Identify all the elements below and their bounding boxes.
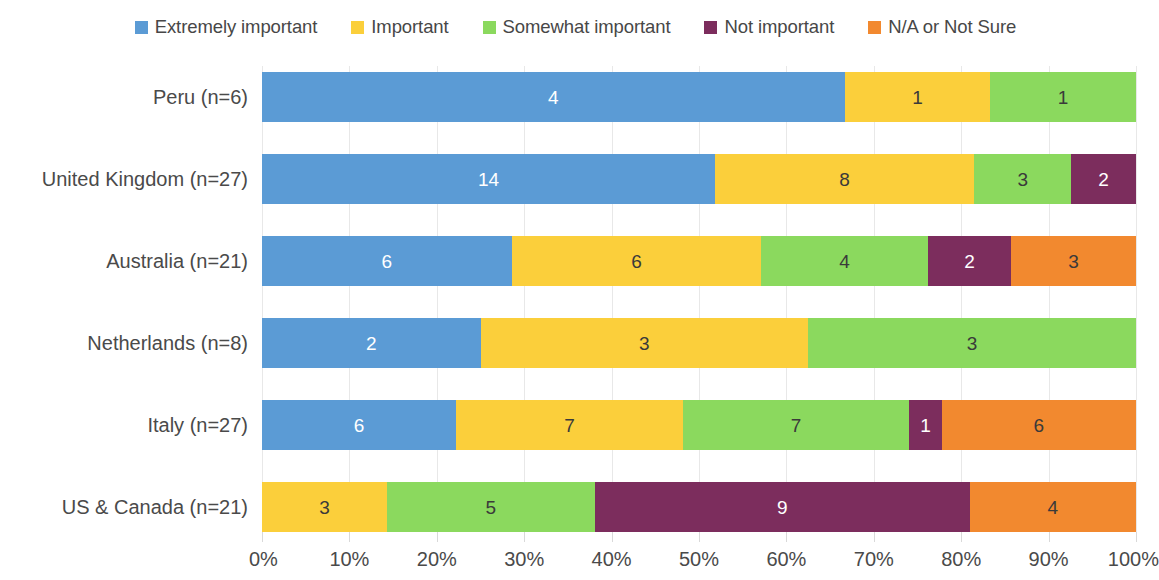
legend-item-label: Important <box>371 17 448 37</box>
chart-legend: Extremely importantImportantSomewhat imp… <box>0 10 1151 44</box>
bar-segment[interactable]: 6 <box>262 400 456 450</box>
bar-row: 66423 <box>262 236 1136 286</box>
x-axis-tick-label: 50% <box>679 548 719 571</box>
x-axis-tick-label: 90% <box>1029 548 1069 571</box>
square-swatch-icon <box>483 21 496 34</box>
bar-segment[interactable]: 2 <box>1071 154 1136 204</box>
y-axis-label: Italy (n=27) <box>0 400 248 450</box>
bar-segment[interactable]: 2 <box>928 236 1011 286</box>
bar-segment-value: 4 <box>1047 498 1058 517</box>
x-axis-tick-label: 70% <box>854 548 894 571</box>
bar-segment-value: 3 <box>967 334 978 353</box>
y-axis-category-labels: Peru (n=6)United Kingdom (n=27)Australia… <box>0 66 248 532</box>
bar-segment[interactable]: 3 <box>974 154 1071 204</box>
x-axis-tick-label: 20% <box>417 548 457 571</box>
bar-segment[interactable]: 3 <box>808 318 1136 368</box>
x-axis-tick <box>612 532 613 542</box>
x-axis-tick-label: 30% <box>504 548 544 571</box>
bar-row: 3594 <box>262 482 1136 532</box>
bar-row: 233 <box>262 318 1136 368</box>
bar-segment-value: 7 <box>791 416 802 435</box>
bar-segment-value: 6 <box>354 416 365 435</box>
bar-segment[interactable]: 9 <box>595 482 970 532</box>
x-axis-tick-label: 0% <box>249 548 278 571</box>
bar-segment[interactable]: 1 <box>845 72 991 122</box>
legend-item[interactable]: Extremely important <box>135 17 318 37</box>
gridline <box>1136 66 1137 532</box>
bar-row: 411 <box>262 72 1136 122</box>
bar-segment-value: 6 <box>1034 416 1045 435</box>
x-axis-tick-label: 40% <box>592 548 632 571</box>
bar-segment[interactable]: 8 <box>715 154 974 204</box>
y-axis-label: US & Canada (n=21) <box>0 482 248 532</box>
x-axis-tick-label: 80% <box>941 548 981 571</box>
x-axis-tick <box>874 532 875 542</box>
bar-segment-value: 5 <box>486 498 497 517</box>
x-axis-tick <box>262 532 263 542</box>
x-axis-tick <box>437 532 438 542</box>
bar-segment[interactable]: 3 <box>1011 236 1136 286</box>
bar-row: 14832 <box>262 154 1136 204</box>
bar-segment[interactable]: 4 <box>761 236 927 286</box>
plot-area: 4111483266423233677163594 <box>262 66 1136 532</box>
square-swatch-icon <box>868 21 881 34</box>
bar-segment[interactable]: 3 <box>262 482 387 532</box>
legend-item[interactable]: Important <box>351 17 448 37</box>
x-axis-tick <box>699 532 700 542</box>
x-axis-tick <box>961 532 962 542</box>
bar-row: 67716 <box>262 400 1136 450</box>
legend-item-label: Not important <box>724 17 834 37</box>
bar-segment-value: 6 <box>382 252 393 271</box>
square-swatch-icon <box>135 21 148 34</box>
bar-segment[interactable]: 14 <box>262 154 715 204</box>
y-axis-label: Netherlands (n=8) <box>0 318 248 368</box>
bar-segment-value: 1 <box>912 88 923 107</box>
legend-item-label: Extremely important <box>155 17 318 37</box>
bar-segment-value: 1 <box>920 416 931 435</box>
bar-segment[interactable]: 1 <box>909 400 941 450</box>
bar-segment-value: 7 <box>564 416 575 435</box>
bar-segment-value: 3 <box>319 498 330 517</box>
bar-segment-value: 2 <box>1098 170 1109 189</box>
x-axis-tick <box>349 532 350 542</box>
bar-segment-value: 14 <box>478 170 499 189</box>
bar-segment[interactable]: 6 <box>262 236 512 286</box>
bar-segment-value: 4 <box>839 252 850 271</box>
bar-segment-value: 2 <box>964 252 975 271</box>
bar-segment[interactable]: 1 <box>990 72 1136 122</box>
x-axis-tick <box>1049 532 1050 542</box>
bar-segment-value: 4 <box>548 88 559 107</box>
bar-segment[interactable]: 4 <box>262 72 845 122</box>
bar-segment[interactable]: 6 <box>512 236 762 286</box>
square-swatch-icon <box>351 21 364 34</box>
x-axis-tick-label: 100% <box>1108 548 1159 571</box>
bar-segment[interactable]: 5 <box>387 482 595 532</box>
bar-segment[interactable]: 7 <box>456 400 683 450</box>
bar-segment-value: 3 <box>639 334 650 353</box>
bar-segment-value: 9 <box>777 498 788 517</box>
legend-item[interactable]: Somewhat important <box>483 17 671 37</box>
bar-segment-value: 2 <box>366 334 377 353</box>
legend-item[interactable]: N/A or Not Sure <box>868 17 1016 37</box>
x-axis-tick <box>786 532 787 542</box>
x-axis-tick-label: 10% <box>329 548 369 571</box>
bar-segment[interactable]: 2 <box>262 318 481 368</box>
bar-segment-value: 8 <box>839 170 850 189</box>
legend-item-label: Somewhat important <box>503 17 671 37</box>
x-axis-tick-label: 60% <box>766 548 806 571</box>
x-axis-tick <box>1136 532 1137 542</box>
legend-item[interactable]: Not important <box>704 17 834 37</box>
legend-item-label: N/A or Not Sure <box>888 17 1016 37</box>
bar-segment[interactable]: 7 <box>683 400 910 450</box>
x-axis: 0%10%20%30%40%50%60%70%80%90%100% <box>262 532 1136 580</box>
bar-segment-value: 6 <box>631 252 642 271</box>
bar-segment[interactable]: 4 <box>970 482 1136 532</box>
bar-segment[interactable]: 3 <box>481 318 809 368</box>
y-axis-label: Peru (n=6) <box>0 72 248 122</box>
y-axis-label: Australia (n=21) <box>0 236 248 286</box>
x-axis-tick <box>524 532 525 542</box>
square-swatch-icon <box>704 21 717 34</box>
bar-segment-value: 3 <box>1068 252 1079 271</box>
bar-segment[interactable]: 6 <box>942 400 1136 450</box>
